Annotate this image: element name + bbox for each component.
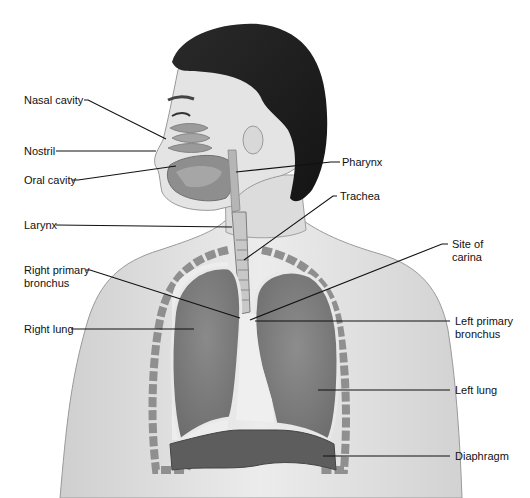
label-left-lung: Left lung: [455, 384, 497, 397]
label-larynx: Larynx: [24, 219, 57, 232]
label-left-primary-bronchus-line1: Left primary: [455, 315, 513, 328]
label-right-primary-bronchus-line2: bronchus: [24, 277, 89, 290]
label-nostril: Nostril: [24, 145, 55, 158]
head: [155, 24, 328, 212]
label-diaphragm: Diaphragm: [455, 450, 509, 463]
label-site-of-carina: Site of carina: [452, 238, 483, 264]
label-right-primary-bronchus-line1: Right primary: [24, 264, 89, 277]
label-site-of-carina-line2: carina: [452, 251, 483, 264]
label-trachea: Trachea: [340, 190, 380, 203]
label-left-primary-bronchus: Left primary bronchus: [455, 315, 513, 341]
label-right-lung: Right lung: [24, 323, 74, 336]
label-oral-cavity: Oral cavity: [24, 174, 76, 187]
label-left-primary-bronchus-line2: bronchus: [455, 328, 513, 341]
label-pharynx: Pharynx: [342, 156, 382, 169]
label-nasal-cavity: Nasal cavity: [24, 94, 83, 107]
label-right-primary-bronchus: Right primary bronchus: [24, 264, 89, 290]
respiratory-diagram: Nasal cavity Nostril Oral cavity Larynx …: [0, 0, 530, 498]
anatomy-illustration: [0, 0, 530, 498]
label-site-of-carina-line1: Site of: [452, 238, 483, 251]
